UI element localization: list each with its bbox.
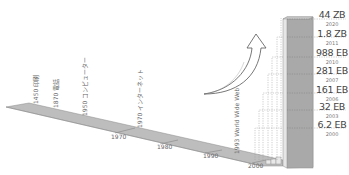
event-internet: 1970 インターネット (136, 69, 143, 128)
event-world-wide-web: 1993 World Wide Web (233, 88, 240, 154)
volume-value: 281 EB (316, 66, 348, 76)
event-printing: 1450 印刷 (32, 75, 39, 104)
axis-tick-1970: 1970 (111, 133, 126, 140)
volume-value: 161 EB (316, 85, 348, 95)
axis-tick-1980: 1980 (157, 143, 172, 150)
volume-value: 1.8 ZB (316, 29, 348, 39)
event-telephone: 1870 電話 (52, 79, 59, 108)
volume-year: 2000 (316, 131, 348, 137)
timeline-band (6, 103, 283, 166)
volume-year: 2020 (316, 21, 348, 27)
volume-value: 32 EB (316, 102, 348, 112)
growth-arrow-icon (204, 34, 266, 94)
volume-value: 988 EB (316, 48, 348, 58)
axis-tick-1990: 1990 (203, 152, 218, 159)
axis-tick-2000: 2000 (248, 162, 263, 169)
volume-value: 6.2 EB (316, 120, 348, 130)
event-computer: 1950 コンピューター (81, 57, 88, 116)
data-volume-bar (283, 17, 313, 168)
volume-value: 44 ZB (316, 10, 348, 20)
volume-year: 2007 (316, 77, 348, 83)
volume-year: 2011 (316, 40, 348, 46)
